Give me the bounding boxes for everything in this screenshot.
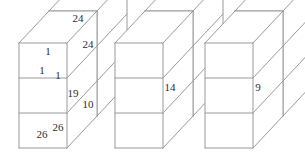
block-3-label-side-middle: 9 xyxy=(255,81,261,93)
block-1-label-front-bottom: 26 xyxy=(37,128,49,140)
block-2-label-side-middle: 14 xyxy=(165,81,177,93)
block-1-label-top-far: 24 xyxy=(73,12,85,24)
block-1-label-top-near: 1 xyxy=(45,45,51,57)
block-1-label-side-middle: 19 xyxy=(68,87,80,99)
block-1-label-front-top: 1 xyxy=(39,64,45,76)
block-1-label-side-bottom: 26 xyxy=(53,121,65,133)
front-face-fill xyxy=(115,43,163,148)
block-diagram-figure: 242411119102626149 xyxy=(0,0,305,159)
right-face-fill xyxy=(283,0,305,116)
block-2-layer-0 xyxy=(115,11,193,148)
block-3-layer-0 xyxy=(205,11,283,148)
block-1-label-side-top-near: 1 xyxy=(55,69,61,81)
front-face-fill xyxy=(205,43,253,148)
block-1-label-side-top-far: 24 xyxy=(83,38,95,50)
diagram-canvas: 242411119102626149 xyxy=(0,0,305,159)
block-1-label-side-mid-far: 10 xyxy=(83,98,95,110)
